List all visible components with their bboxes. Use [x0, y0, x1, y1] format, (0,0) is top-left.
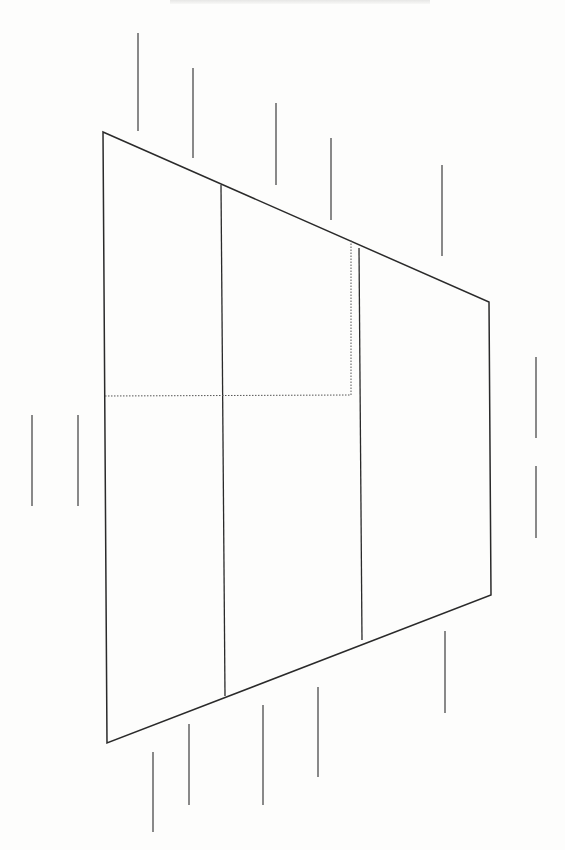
top-tick-marks: [138, 33, 442, 256]
dotted-region-boundary: [105, 240, 351, 396]
bottom-tick-marks: [153, 631, 445, 832]
left-tick-marks: [32, 415, 78, 506]
vertical-dividers: [221, 185, 362, 696]
vertical-divider-1: [221, 185, 225, 696]
trapezoid-diagram: [0, 0, 565, 850]
trapezoid-outline: [103, 132, 491, 743]
vertical-divider-2: [359, 248, 362, 640]
scanned-page: [0, 0, 565, 850]
